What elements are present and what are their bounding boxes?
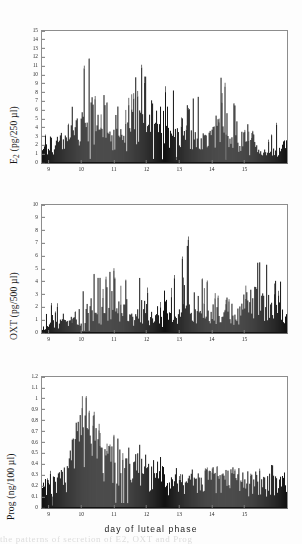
y-tick-label: 3: [35, 134, 42, 139]
y-tick-label: 0: [35, 505, 42, 510]
caption-bleed-text: the patterns of secretion of E2, OXT and…: [0, 534, 302, 544]
y-tick-label: 2: [35, 305, 42, 310]
y-tick-label: 0.5: [31, 451, 42, 456]
y-axis-title-e2-subscript: 2: [12, 154, 21, 158]
figure-container: E2 (pg/250 µl) 0123456789101112131415 91…: [0, 0, 302, 544]
plot-canvas-prog: [42, 377, 287, 508]
x-tick-label: 12: [144, 333, 150, 343]
y-tick-label: 0.3: [31, 473, 42, 478]
y-tick-label: 3: [35, 292, 42, 297]
x-tick-label: 11: [111, 333, 116, 343]
x-tick-label: 11: [111, 508, 116, 518]
x-tick-label: 13: [176, 333, 182, 343]
x-tick-label: 9: [47, 508, 50, 518]
y-tick-label: 0.6: [31, 440, 42, 445]
y-tick-label: 9: [35, 215, 42, 220]
y-tick-label: 5: [35, 116, 42, 121]
y-tick-label: 0.1: [31, 494, 42, 499]
y-tick-label: 0: [35, 160, 42, 165]
x-tick-label: 14: [209, 163, 215, 173]
y-tick-label: 1: [35, 152, 42, 157]
y-tick-label: 0: [35, 330, 42, 335]
y-tick-label: 6: [35, 254, 42, 259]
y-tick-label: 7: [35, 99, 42, 104]
y-tick-label: 15: [33, 28, 42, 33]
x-tick-label: 12: [144, 163, 150, 173]
plot-area-e2: 0123456789101112131415 9101112131415: [41, 30, 288, 164]
x-tick-label: 10: [78, 163, 84, 173]
y-axis-title-prog-main: Prog: [6, 501, 16, 520]
y-tick-label: 8: [35, 228, 42, 233]
y-axis-title-e2-main: E: [9, 158, 19, 164]
x-tick-label: 10: [78, 508, 84, 518]
y-tick-label: 1: [35, 396, 42, 401]
x-tick-label: 14: [209, 333, 215, 343]
plot-area-oxt: 012345678910 9101112131415: [41, 204, 288, 334]
y-tick-label: 9: [35, 81, 42, 86]
y-tick-label: 0.2: [31, 484, 42, 489]
plot-canvas-oxt: [42, 205, 287, 333]
y-axis-title-prog: Prog (ng/100 µl): [6, 390, 16, 520]
y-tick-label: 0.7: [31, 429, 42, 434]
y-axis-title-e2: E2 (pg/250 µl): [9, 34, 19, 164]
y-axis-title-oxt-units: (pg/500 µl): [9, 272, 19, 320]
chart-panel-prog: Prog (ng/100 µl) 00.10.20.30.40.50.60.70…: [0, 362, 302, 544]
y-axis-title-prog-units: (ng/100 µl): [6, 453, 16, 501]
y-tick-label: 6: [35, 108, 42, 113]
y-tick-label: 11: [33, 64, 42, 69]
x-tick-label: 12: [144, 508, 150, 518]
y-axis-title-oxt-main: OXT: [9, 320, 19, 340]
y-tick-label: 2: [35, 143, 42, 148]
y-tick-label: 1: [35, 318, 42, 323]
x-tick-label: 9: [47, 163, 50, 173]
y-tick-label: 1.1: [31, 385, 42, 390]
y-tick-label: 1.2: [31, 374, 42, 379]
y-tick-label: 0.9: [31, 407, 42, 412]
x-tick-label: 14: [209, 508, 215, 518]
y-tick-label: 8: [35, 90, 42, 95]
x-tick-label: 9: [47, 333, 50, 343]
x-tick-label: 10: [78, 333, 84, 343]
chart-panel-e2: E2 (pg/250 µl) 0123456789101112131415 91…: [0, 14, 302, 186]
y-tick-label: 10: [33, 72, 42, 77]
x-tick-label: 13: [176, 508, 182, 518]
chart-panel-oxt: OXT (pg/500 µl) 012345678910 91011121314…: [0, 190, 302, 358]
y-tick-label: 7: [35, 241, 42, 246]
y-tick-label: 12: [33, 55, 42, 60]
y-tick-label: 0.8: [31, 418, 42, 423]
y-tick-label: 0.4: [31, 462, 42, 467]
plot-canvas-e2: [42, 31, 287, 163]
y-tick-label: 4: [35, 279, 42, 284]
y-tick-label: 14: [33, 37, 42, 42]
y-tick-label: 5: [35, 266, 42, 271]
plot-area-prog: 00.10.20.30.40.50.60.70.80.911.11.2 9101…: [41, 376, 288, 509]
x-tick-label: 15: [242, 333, 248, 343]
x-tick-label: 15: [242, 508, 248, 518]
y-tick-label: 10: [33, 202, 42, 207]
y-tick-label: 13: [33, 46, 42, 51]
y-axis-title-e2-units: (pg/250 µl): [9, 106, 19, 154]
y-tick-label: 4: [35, 125, 42, 130]
x-tick-label: 13: [176, 163, 182, 173]
x-tick-label: 15: [242, 163, 248, 173]
y-axis-title-oxt: OXT (pg/500 µl): [9, 210, 19, 340]
x-tick-label: 11: [111, 163, 116, 173]
x-axis-caption: day of luteal phase: [0, 524, 302, 534]
